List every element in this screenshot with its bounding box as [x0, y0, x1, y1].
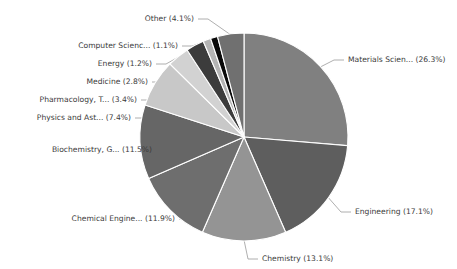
pie-slice-label: Medicine (2.8%): [86, 77, 148, 86]
pie-slice-label: Pharmacology, T... (3.4%): [40, 95, 137, 104]
pie-slice-label: Chemical Engine... (11.9%): [72, 214, 175, 223]
pie-chart-svg: Materials Scien... (26.3%)Engineering (1…: [0, 0, 457, 269]
pie-slice-label: Biochemistry, G... (11.5%): [52, 145, 152, 154]
pie-slice-label: Other (4.1%): [145, 14, 194, 23]
pie-slice-label: Computer Scienc... (1.1%): [78, 41, 178, 50]
pie-slice-label: Engineering (17.1%): [355, 207, 433, 216]
pie-slice-label: Physics and Ast... (7.4%): [37, 113, 131, 122]
pie-slice-group: [140, 33, 348, 241]
pie-slice-label: Materials Scien... (26.3%): [348, 55, 446, 64]
pie-chart-figure: Materials Scien... (26.3%)Engineering (1…: [0, 0, 457, 269]
pie-slice-label: Chemistry (13.1%): [262, 254, 333, 263]
pie-slice-label: Energy (1.2%): [98, 59, 152, 68]
